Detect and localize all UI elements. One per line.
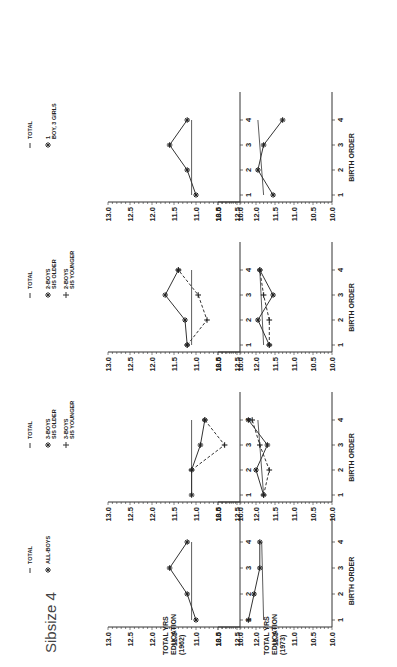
legend-label: TOTAL — [27, 121, 33, 139]
legend-entry: 3-BOYSSIS OLDER — [45, 409, 57, 448]
x-tick-label: 4 — [336, 417, 345, 422]
y-tick-label: 10.5 — [309, 357, 318, 372]
series-line — [248, 542, 259, 620]
legend-entry: 3-BOYSSIS YOUNGER — [63, 401, 75, 448]
x-tick-label: 3 — [336, 566, 345, 570]
x-tick-label: 1 — [336, 193, 345, 197]
x-tick-label: 3 — [336, 293, 345, 297]
x-tick-label: 4 — [244, 117, 253, 122]
x-tick-label: 3 — [244, 143, 253, 147]
y-tick-label: 11.0 — [192, 357, 201, 371]
legend-entry: TOTAL — [27, 271, 33, 298]
y-tick-label: 12.5 — [233, 207, 242, 222]
legend-entry: 2-BOYSSIS YOUNGER — [63, 251, 75, 298]
x-tick-label: 2 — [336, 592, 345, 596]
legend-entry: TOTAL — [27, 546, 33, 573]
series-line — [260, 270, 264, 345]
legend-label: SIS OLDER — [51, 409, 57, 439]
y-tick-label: 12.5 — [126, 357, 135, 372]
panel-7: 13.012.512.011.511.010.510.01234BIRTH OR… — [214, 242, 356, 372]
y-tick-label: 11.5 — [271, 207, 280, 221]
legend-entry: 2-BOYSSIS OLDER — [45, 259, 57, 298]
panel-5: 13.012.512.011.511.010.510.01234BIRTH OR… — [214, 517, 356, 655]
x-tick-label: 2 — [336, 318, 345, 322]
x-tick-label: 4 — [336, 117, 345, 122]
legend-entry: ALL-BOYS — [45, 536, 51, 573]
y-tick-label: 13.0 — [104, 357, 113, 372]
y-tick-label: 12.0 — [252, 507, 261, 522]
x-tick-label: 2 — [244, 468, 253, 472]
series-line — [170, 542, 196, 620]
y-tick-label: 10.5 — [309, 507, 318, 522]
y-tick-label: 12.0 — [148, 632, 157, 647]
y-tick-label: 12.5 — [126, 507, 135, 522]
y-tick-label: 13.0 — [104, 632, 113, 647]
x-tick-label: 1 — [336, 493, 345, 497]
y-tick-label: 11.5 — [170, 207, 179, 221]
x-tick-label: 2 — [244, 168, 253, 172]
y-tick-label: 12.0 — [252, 357, 261, 372]
y-tick-label: 13.0 — [214, 357, 223, 372]
y-axis-title: EDUCATION — [271, 614, 278, 655]
x-tick-label: 1 — [244, 493, 253, 497]
y-tick-label: 12.5 — [126, 632, 135, 647]
y-tick-label: 13.0 — [104, 207, 113, 222]
y-axis-title: (1973) — [279, 635, 287, 655]
y-axis-title: TOTAL YRS — [162, 616, 169, 655]
y-tick-label: 11.5 — [271, 357, 280, 371]
y-tick-label: 13.0 — [214, 207, 223, 222]
y-tick-label: 11.0 — [192, 207, 201, 221]
y-tick-label: 11.0 — [192, 632, 201, 646]
x-tick-label: 2 — [336, 168, 345, 172]
rotated-page: Sibsize 4 13.012.512.011.511.010.510.012… — [0, 0, 397, 667]
y-tick-label: 11.5 — [271, 507, 280, 521]
x-tick-label: 3 — [336, 143, 345, 147]
series-line — [192, 420, 205, 495]
y-tick-label: 13.0 — [104, 507, 113, 522]
legend-label: TOTAL — [27, 546, 33, 564]
x-tick-label: 3 — [244, 293, 253, 297]
panel-6: 13.012.512.011.511.010.510.01234BIRTH OR… — [214, 392, 356, 522]
legend-label: SIS YOUNGER — [69, 251, 75, 289]
x-tick-label: 3 — [244, 566, 253, 570]
x-axis-title: BIRTH ORDER — [348, 557, 355, 606]
y-tick-label: 11.0 — [192, 507, 201, 521]
x-tick-label: 1 — [336, 618, 345, 622]
page-title: Sibsize 4 — [42, 592, 59, 653]
series-line — [192, 420, 225, 470]
y-tick-label: 13.0 — [214, 507, 223, 522]
x-tick-label: 2 — [336, 468, 345, 472]
series-line — [248, 420, 267, 495]
x-tick-label: 3 — [244, 443, 253, 447]
y-tick-label: 11.0 — [290, 207, 299, 221]
legend-label: TOTAL — [27, 421, 33, 439]
x-axis-title: BIRTH ORDER — [348, 283, 355, 332]
x-tick-label: 4 — [336, 267, 345, 272]
y-tick-label: 12.5 — [233, 507, 242, 522]
y-tick-label: 10.5 — [309, 632, 318, 647]
y-tick-label: 11.0 — [290, 507, 299, 521]
y-tick-label: 12.0 — [148, 207, 157, 222]
legend-entry: TOTAL — [27, 121, 33, 148]
y-tick-label: 10.0 — [328, 507, 337, 522]
y-axis-title: (1962) — [178, 635, 186, 655]
y-tick-label: 12.0 — [252, 207, 261, 222]
y-tick-label: 13.0 — [214, 632, 223, 647]
x-tick-label: 3 — [336, 443, 345, 447]
y-tick-label: 12.0 — [252, 632, 261, 647]
y-tick-label: 12.0 — [148, 507, 157, 522]
x-axis-title: BIRTH ORDER — [348, 133, 355, 182]
x-tick-label: 1 — [244, 343, 253, 347]
y-axis-title: TOTAL YRS — [263, 616, 270, 655]
y-tick-label: 11.5 — [170, 507, 179, 521]
series-line — [258, 120, 283, 195]
x-tick-label: 4 — [244, 539, 253, 544]
y-tick-label: 12.0 — [148, 357, 157, 372]
x-tick-label: 1 — [336, 343, 345, 347]
x-tick-label: 4 — [336, 539, 345, 544]
x-tick-label: 1 — [244, 193, 253, 197]
series-line — [178, 270, 207, 345]
panel-8: 13.012.512.011.511.010.510.01234BIRTH OR… — [214, 92, 356, 222]
y-tick-label: 11.5 — [170, 357, 179, 371]
y-tick-label: 10.0 — [328, 632, 337, 647]
